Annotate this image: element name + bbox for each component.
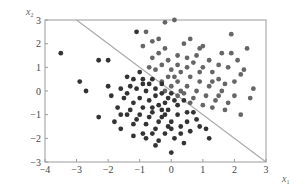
data-point	[96, 58, 101, 63]
data-point	[153, 126, 158, 131]
y-tick-label: 0	[36, 86, 41, 97]
data-point	[156, 138, 161, 143]
data-point	[178, 124, 183, 129]
data-point	[153, 93, 158, 98]
data-point	[156, 103, 161, 108]
x-tick-label: 0	[169, 164, 174, 175]
data-point	[200, 44, 205, 49]
data-point	[229, 51, 234, 56]
data-point	[194, 53, 199, 58]
x-tick-label: −4	[40, 164, 51, 175]
data-point	[178, 89, 183, 94]
data-point	[216, 63, 221, 68]
data-point	[213, 98, 218, 103]
data-point	[169, 67, 174, 72]
data-point	[166, 74, 171, 79]
data-point	[169, 150, 174, 155]
data-point	[172, 74, 177, 79]
data-point	[185, 65, 190, 70]
data-point	[229, 32, 234, 37]
data-point	[106, 58, 111, 63]
data-point	[125, 91, 130, 96]
data-point	[188, 74, 193, 79]
data-point	[210, 70, 215, 75]
data-point	[223, 82, 228, 87]
data-point	[144, 122, 149, 127]
data-point	[163, 131, 168, 136]
data-point	[207, 58, 212, 63]
data-point	[232, 93, 237, 98]
data-point	[115, 105, 120, 110]
data-point	[58, 51, 63, 56]
data-point	[159, 63, 164, 68]
data-point	[238, 112, 243, 117]
data-point	[137, 112, 142, 117]
x-axis-label: x1	[281, 173, 289, 185]
data-point	[118, 86, 123, 91]
data-point	[232, 79, 237, 84]
data-point	[182, 141, 187, 146]
data-point	[191, 96, 196, 101]
x-tick-label: 2	[232, 164, 237, 175]
data-point	[156, 51, 161, 56]
data-point	[185, 55, 190, 60]
data-point	[150, 77, 155, 82]
data-point	[137, 70, 142, 75]
data-point	[112, 119, 117, 124]
data-point	[134, 117, 139, 122]
x-tick-label: 1	[200, 164, 205, 175]
data-point	[197, 79, 202, 84]
data-point	[210, 79, 215, 84]
data-point	[185, 119, 190, 124]
data-point	[175, 112, 180, 117]
data-point	[226, 100, 231, 105]
data-point	[150, 39, 155, 44]
data-point	[175, 103, 180, 108]
y-tick-label: 2	[36, 38, 41, 49]
data-point	[242, 67, 247, 72]
data-point	[226, 65, 231, 70]
data-point	[251, 86, 256, 91]
data-point	[147, 98, 152, 103]
data-point	[159, 91, 164, 96]
y-tick-label: 3	[36, 15, 41, 26]
data-point	[197, 124, 202, 129]
data-point	[150, 105, 155, 110]
data-point	[128, 84, 133, 89]
data-point	[163, 100, 168, 105]
data-point	[169, 119, 174, 124]
data-point	[175, 53, 180, 58]
data-point	[169, 126, 174, 131]
data-point	[144, 136, 149, 141]
data-point	[131, 122, 136, 127]
x-tick-label: 3	[264, 164, 269, 175]
data-point	[207, 136, 212, 141]
data-point	[166, 108, 171, 113]
data-point	[77, 79, 82, 84]
data-point	[166, 96, 171, 101]
data-point	[147, 115, 152, 120]
y-tick-label: −2	[30, 133, 41, 144]
y-tick-label: −1	[30, 109, 41, 120]
x-tick-label: −2	[103, 164, 114, 175]
data-point	[185, 84, 190, 89]
data-point	[153, 143, 158, 148]
data-point	[153, 67, 158, 72]
data-point	[84, 89, 89, 94]
data-point	[172, 136, 177, 141]
x-tick-label: −3	[71, 164, 82, 175]
data-point	[182, 41, 187, 46]
data-point	[125, 112, 130, 117]
data-point	[235, 58, 240, 63]
scatter-chart: −4−3−2−10123 3210−1−2−3 x2 x1	[0, 0, 308, 188]
data-point	[204, 126, 209, 131]
data-point	[219, 89, 224, 94]
data-point	[163, 112, 168, 117]
data-point	[169, 91, 174, 96]
data-point	[131, 134, 136, 139]
y-axis-label: x2	[25, 6, 33, 18]
data-point	[150, 110, 155, 115]
data-point	[188, 129, 193, 134]
data-point	[156, 119, 161, 124]
data-point	[140, 131, 145, 136]
